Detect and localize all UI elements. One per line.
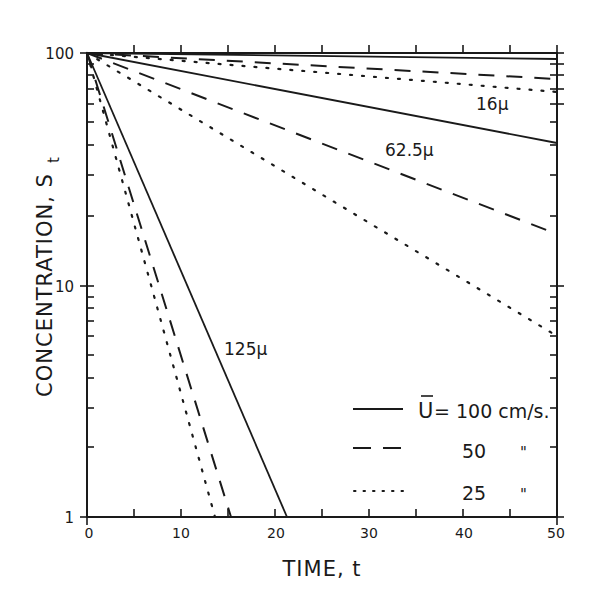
y-axis-title-sub: t: [45, 157, 63, 163]
x-tick-label-40: 40: [455, 525, 473, 541]
y-tick-label-1: 1: [64, 509, 74, 527]
y-axis-title: CONCENTRATION, S t: [33, 157, 63, 397]
line-125u-100cms: [87, 53, 287, 517]
plot-frame: [87, 53, 557, 517]
y-tick-label-10: 10: [55, 278, 74, 296]
legend-ditto-50: ": [520, 444, 527, 462]
chart: 100 10 1 0 10 20 30 40 50 TIME, t CONCEN…: [0, 0, 594, 605]
legend-label-100: = 100 cm/s.: [434, 400, 550, 422]
legend-label-50: 50: [462, 440, 486, 462]
y-axis-title-main: CONCENTRATION, S: [33, 173, 57, 397]
legend: U = 100 cm/s. 50 " 25 ": [353, 396, 550, 504]
annotation-62-5u: 62.5μ: [385, 140, 434, 160]
x-ticks: [87, 45, 557, 525]
line-125u-25cms: [87, 53, 215, 517]
x-tick-label-20: 20: [267, 525, 285, 541]
annotation-16u: 16μ: [476, 94, 509, 114]
x-axis-title: TIME, t: [282, 557, 362, 581]
y-tick-label-100: 100: [45, 45, 74, 63]
legend-label-u-symbol: U: [418, 399, 433, 423]
line-62-5u-50cms: [87, 53, 557, 234]
series-lines: [87, 53, 557, 517]
legend-ditto-25: ": [520, 486, 527, 504]
x-tick-label-30: 30: [360, 525, 378, 541]
legend-label-25: 25: [462, 482, 486, 504]
line-125u-50cms: [87, 53, 231, 517]
x-tick-label-0: 0: [85, 525, 94, 541]
y-ticks: [80, 53, 564, 517]
x-tick-label-50: 50: [547, 525, 565, 541]
annotation-125u: 125μ: [224, 339, 267, 359]
x-tick-label-10: 10: [172, 525, 190, 541]
